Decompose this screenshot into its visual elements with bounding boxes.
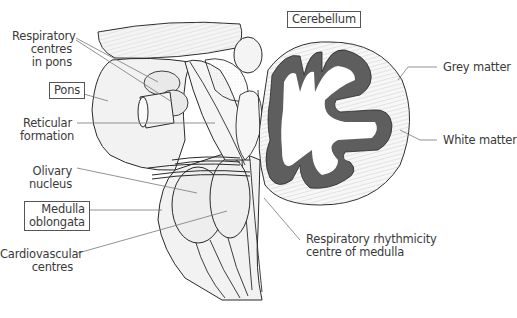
label-line: nucleus xyxy=(20,178,72,191)
label-cardiovascular-centres: Cardiovascular centres xyxy=(0,248,73,274)
label-reticular-formation: Reticular formation xyxy=(20,117,72,143)
cardiovascular-centre-shape xyxy=(210,158,250,238)
label-text: White matter xyxy=(443,133,517,147)
label-text: Cerebellum xyxy=(292,12,356,26)
label-respiratory-rhythmicity-centre: Respiratory rhythmicity centre of medull… xyxy=(306,233,437,259)
label-olivary-nucleus: Olivary nucleus xyxy=(20,165,72,191)
label-text: Grey matter xyxy=(443,60,511,74)
label-medulla-oblongata: Medulla oblongata xyxy=(24,201,90,231)
label-cerebellum: Cerebellum xyxy=(287,11,361,28)
label-line: centres xyxy=(0,261,73,274)
label-line: oblongata xyxy=(29,216,85,229)
label-line: in pons xyxy=(12,56,72,69)
midbrain-cut-surface xyxy=(98,22,242,58)
label-line: formation xyxy=(20,130,72,143)
cerebellum xyxy=(259,42,409,205)
label-white-matter: White matter xyxy=(443,134,517,147)
label-grey-matter: Grey matter xyxy=(443,61,511,74)
label-respiratory-centres-pons: Respiratory centres in pons xyxy=(12,30,72,69)
label-line: centre of medulla xyxy=(306,246,437,259)
label-pons: Pons xyxy=(49,82,85,99)
peduncles xyxy=(185,37,262,170)
label-text: Pons xyxy=(54,83,80,97)
